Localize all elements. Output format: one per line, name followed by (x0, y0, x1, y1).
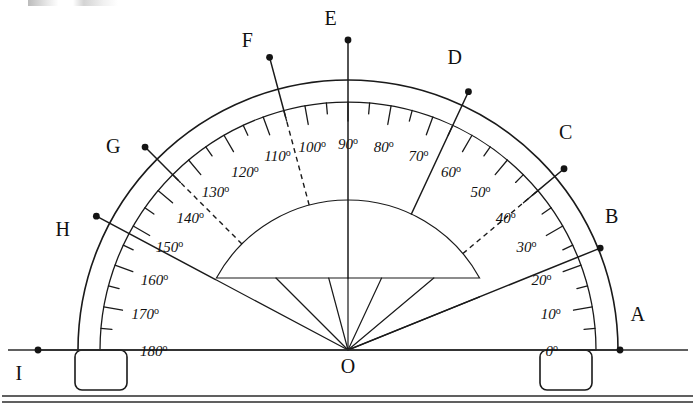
degree-label-120: 120o (231, 162, 259, 180)
ray-endpoint-dot-H[interactable] (93, 213, 100, 220)
major-tick (263, 117, 269, 135)
point-label-E: E (325, 7, 337, 29)
point-label-F: F (242, 29, 253, 51)
degree-label-40: 40o (496, 208, 516, 226)
point-label-D: D (447, 46, 461, 68)
ray-endpoint-dot-G[interactable] (142, 144, 149, 151)
minor-tick (563, 245, 573, 250)
minor-tick (369, 103, 370, 114)
degree-label-180: 180o (140, 342, 168, 360)
major-tick (495, 160, 507, 175)
origin-label: O (341, 355, 355, 377)
ray-segment-G (145, 147, 175, 177)
major-tick (305, 106, 308, 125)
minor-tick (145, 208, 154, 214)
point-label-B: B (605, 205, 618, 227)
ray-endpoint-dot-F[interactable] (266, 54, 273, 61)
ray-endpoint-dot-I[interactable] (35, 347, 42, 354)
ray-segment-F (270, 57, 285, 114)
ray-endpoint-dot-D[interactable] (465, 88, 472, 95)
protractor-figure: 0o10o20o30o40o50o60o70o80o90o100o110o120… (0, 0, 695, 410)
protractor-diagram: 0o10o20o30o40o50o60o70o80o90o100o110o120… (0, 0, 695, 410)
minor-tick (577, 286, 588, 289)
left-foot (75, 350, 127, 390)
origin-group: O (341, 355, 355, 377)
minor-tick (108, 286, 119, 289)
minor-tick (542, 208, 551, 214)
ray-segment-dashed-F (285, 114, 309, 205)
minor-tick (206, 147, 212, 156)
minor-tick (243, 125, 248, 135)
ray-endpoint-dot-B[interactable] (597, 245, 604, 252)
major-tick (158, 191, 173, 203)
center-ray (216, 280, 348, 350)
center-ray-group (216, 278, 479, 350)
point-label-C: C (559, 121, 572, 143)
point-label-H: H (55, 218, 69, 240)
center-ray (276, 278, 348, 350)
minor-tick (409, 110, 412, 121)
ray-endpoint-dot-A[interactable] (617, 347, 624, 354)
degree-label-160: 160o (141, 270, 169, 288)
minor-tick (101, 328, 112, 329)
degree-label-150: 150o (156, 238, 184, 256)
ray-endpoint-dot-E[interactable] (345, 37, 352, 44)
major-tick (546, 226, 562, 236)
degree-label-100: 100o (298, 138, 326, 156)
major-tick (115, 265, 133, 271)
degree-label-80: 80o (374, 138, 394, 156)
ray-endpoint-dot-group (35, 37, 624, 354)
degree-label-20: 20o (532, 270, 552, 288)
major-tick (574, 307, 593, 310)
ray-segment-B (348, 248, 600, 350)
point-label-group: ABCDEFGHI (15, 7, 645, 384)
degree-label-60: 60o (441, 162, 461, 180)
minor-tick (584, 328, 595, 329)
major-tick (426, 117, 432, 135)
major-tick (224, 135, 234, 151)
point-label-G: G (106, 135, 120, 157)
degree-label-90: 90o (338, 135, 358, 153)
major-tick (388, 106, 391, 125)
degree-label-50: 50o (470, 183, 490, 201)
degree-label-70: 70o (408, 147, 428, 165)
ray-endpoint-dot-C[interactable] (561, 165, 568, 172)
degree-label-140: 140o (176, 208, 204, 226)
point-label-I: I (15, 362, 22, 384)
ray-segment-C (535, 169, 564, 193)
point-label-A: A (631, 303, 646, 325)
major-tick (104, 307, 123, 310)
major-tick (463, 135, 473, 151)
degree-label-0: 0o (546, 342, 559, 360)
degree-label-130: 130o (202, 183, 230, 201)
major-tick (133, 226, 149, 236)
center-ray (348, 278, 434, 350)
minor-tick (123, 245, 133, 250)
minor-tick (484, 147, 490, 156)
labelled-ray-group (38, 40, 620, 350)
degree-label-170: 170o (131, 305, 159, 323)
degree-label-110: 110o (264, 147, 290, 165)
center-ray (329, 278, 348, 350)
minor-tick (326, 103, 327, 114)
degree-label-10: 10o (541, 305, 561, 323)
major-tick (563, 265, 581, 271)
minor-tick (516, 175, 524, 183)
degree-label-30: 30o (515, 238, 536, 256)
major-tick (189, 160, 201, 175)
